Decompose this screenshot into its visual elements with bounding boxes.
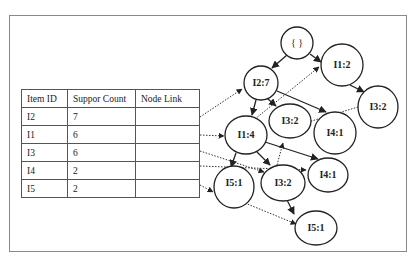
fp-tree-diagram: { } I2:7 I1:2 I3:2 I1:4 I3:2 I4:1 I5:1 I… [0, 0, 416, 263]
label-i5-1-lower: I5:1 [307, 222, 324, 233]
link-table-i2 [200, 89, 242, 117]
edge-root-i2 [272, 55, 287, 68]
label-i2-7: I2:7 [252, 77, 269, 88]
label-i1-4: I1:4 [237, 129, 254, 140]
edge-root-i1 [310, 54, 321, 62]
edge-i2-i1 [252, 100, 256, 115]
link-table-i5 [200, 185, 213, 192]
edge-i1-i5 [231, 153, 236, 167]
label-i3-2-upper: I3:2 [281, 115, 298, 126]
label-i3-2-lower: I3:2 [274, 177, 291, 188]
label-i5-1-left: I5:1 [225, 177, 242, 188]
label-i3-2-right: I3:2 [369, 101, 386, 112]
link-table-i1 [200, 135, 224, 136]
label-i4-1-lower: I4:1 [319, 169, 336, 180]
edge-i1-i4-lower [265, 142, 318, 159]
label-i1-2: I1:2 [333, 59, 350, 70]
edge-i1-i3 [350, 85, 364, 92]
label-i4-1-upper: I4:1 [326, 127, 343, 138]
label-root: { } [291, 37, 303, 48]
edge-i1-i3-lower [257, 152, 270, 165]
link-i5-chain [245, 203, 296, 224]
edge-i3-i5-lower [287, 200, 294, 214]
